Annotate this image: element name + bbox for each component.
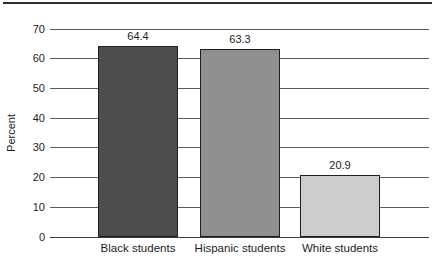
bar-value-label-hispanic-students: 63.3	[215, 33, 265, 46]
y-tick-label-60: 60	[18, 52, 45, 65]
bar-white-students	[300, 175, 380, 237]
bar-hispanic-students	[200, 49, 280, 237]
y-tick-label-30: 30	[18, 141, 45, 154]
y-tick-label-20: 20	[18, 171, 45, 184]
y-tick-label-50: 50	[18, 82, 45, 95]
x-category-label-white-students: White students	[280, 241, 400, 255]
y-tick-label-40: 40	[18, 112, 45, 125]
gridline-70	[50, 29, 429, 30]
bar-chart: Percent 01020304050607064.4Black student…	[0, 0, 435, 267]
y-tick-label-10: 10	[18, 201, 45, 214]
y-tick-label-70: 70	[18, 23, 45, 36]
y-tick-label-0: 0	[18, 231, 45, 244]
bar-value-label-white-students: 20.9	[315, 159, 365, 172]
bar-value-label-black-students: 64.4	[113, 30, 163, 43]
y-axis-title: Percent	[5, 114, 17, 152]
page: Percent 01020304050607064.4Black student…	[0, 0, 435, 267]
bar-black-students	[98, 46, 178, 237]
